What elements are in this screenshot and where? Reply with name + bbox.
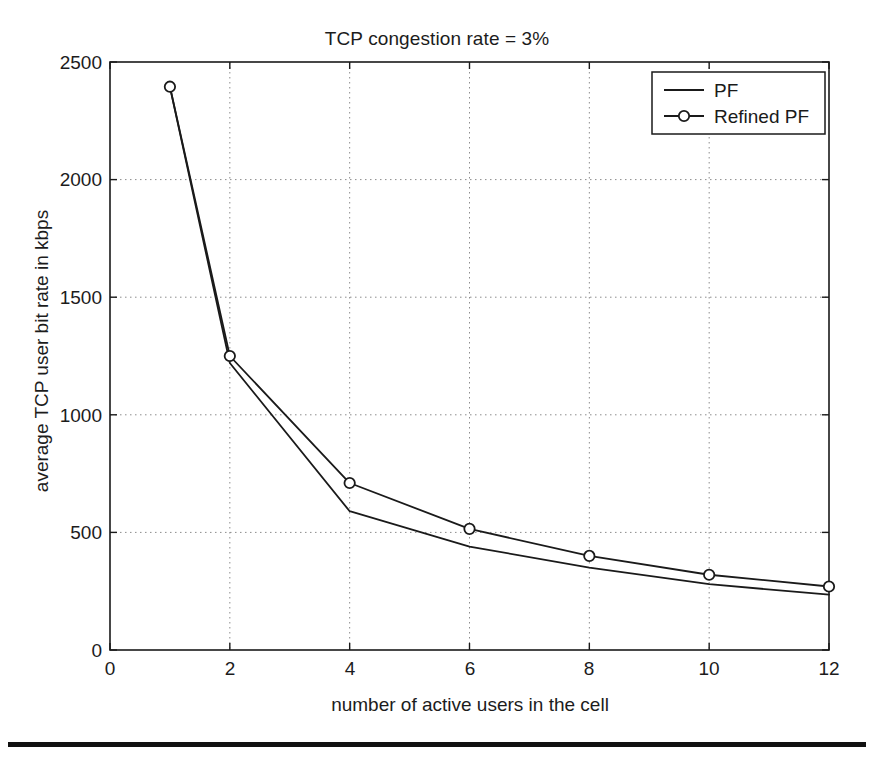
series-line-1: [170, 87, 829, 587]
legend-label-0: PF: [714, 80, 738, 101]
plot-area: PFRefined PF: [0, 0, 874, 769]
gridlines: [110, 62, 829, 650]
legend-marker-swatch-1: [679, 111, 689, 121]
chart-legend: PFRefined PF: [652, 72, 825, 134]
series-marker-1: [704, 570, 714, 580]
axes-frame: [110, 62, 829, 650]
axis-ticks: [110, 62, 829, 650]
legend-label-1: Refined PF: [714, 106, 809, 127]
bottom-divider-rule: [8, 742, 866, 747]
series-marker-1: [165, 81, 175, 91]
series-marker-1: [824, 581, 834, 591]
series-marker-1: [464, 524, 474, 534]
series-marker-1: [344, 478, 354, 488]
series-line-0: [170, 87, 829, 595]
figure-container: TCP congestion rate = 3% average TCP use…: [0, 0, 874, 769]
series-marker-1: [225, 351, 235, 361]
data-series-layer: [165, 81, 834, 594]
plot-frame: [110, 62, 829, 650]
series-marker-1: [584, 551, 594, 561]
